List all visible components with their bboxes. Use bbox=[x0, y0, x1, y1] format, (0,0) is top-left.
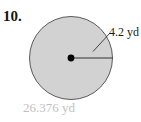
radius-measurement-label: 4.2 yd bbox=[109, 26, 139, 39]
figure-panel: 10. 4.2 yd 26.376 yd bbox=[0, 0, 141, 122]
center-point-dot bbox=[68, 55, 75, 62]
answer-circumference-label: 26.376 yd bbox=[23, 101, 75, 115]
